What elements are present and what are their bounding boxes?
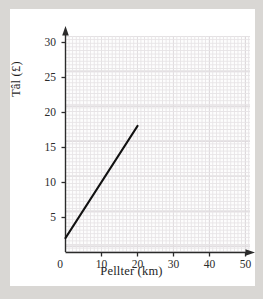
y-axis-arrow-icon [62, 26, 69, 36]
y-tick-label-20: 20 [35, 107, 56, 119]
chart-panel: 5 10 15 20 25 30 0 10 20 30 40 50 [10, 9, 255, 286]
figure-container: 5 10 15 20 25 30 0 10 20 30 40 50 Pellte… [0, 0, 263, 299]
y-tick-label-10: 10 [35, 177, 56, 189]
x-axis-title: Pellter (km) [0, 264, 263, 279]
y-tick-label-25: 25 [35, 72, 56, 84]
data-line-fare [66, 126, 138, 238]
chart-vector-layer [10, 9, 263, 299]
y-tick-label-5: 5 [38, 212, 56, 224]
y-tick-label-30: 30 [35, 37, 56, 49]
x-axis-arrow-icon [246, 249, 256, 256]
y-axis-title: Tâl (£) [9, 61, 24, 97]
y-tick-label-15: 15 [35, 142, 56, 154]
